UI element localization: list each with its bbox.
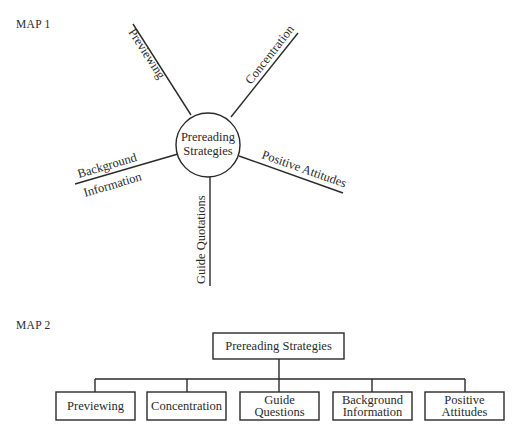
child-node-guide-questions: Guide Questions — [240, 392, 319, 420]
center-label-line1: Prereading — [181, 130, 236, 144]
center-label-line2: Strategies — [183, 144, 232, 158]
map2-root-node: Prereading Strategies — [213, 333, 344, 359]
child-node-previewing: Previewing — [56, 392, 135, 420]
map1-center-node: Prereading Strategies — [176, 113, 240, 177]
child-label-line2: Attitudes — [442, 405, 488, 419]
diagram-canvas: MAP 1 Prereading Strategies Previewing C… — [0, 0, 527, 434]
branch-label-guide-quotations: Guide Quotations — [194, 195, 208, 284]
child-label-line2: Information — [343, 405, 403, 419]
map1-title: MAP 1 — [16, 18, 51, 30]
map2-title: MAP 2 — [16, 319, 51, 331]
branch-label-concentration: Concentration — [242, 22, 297, 87]
branch-label-previewing: Previewing — [125, 26, 168, 82]
child-label: Previewing — [67, 399, 125, 413]
child-label: Concentration — [151, 399, 223, 413]
child-node-positive-attitudes: Positive Attitudes — [425, 392, 504, 420]
child-node-background-information: Background Information — [333, 392, 412, 420]
child-node-concentration: Concentration — [147, 392, 226, 420]
branch-line-concentration — [231, 33, 298, 117]
branch-label-positive-attitudes: Positive Attitudes — [260, 148, 348, 191]
root-label: Prereading Strategies — [225, 339, 332, 353]
child-label-line2: Questions — [255, 405, 305, 419]
